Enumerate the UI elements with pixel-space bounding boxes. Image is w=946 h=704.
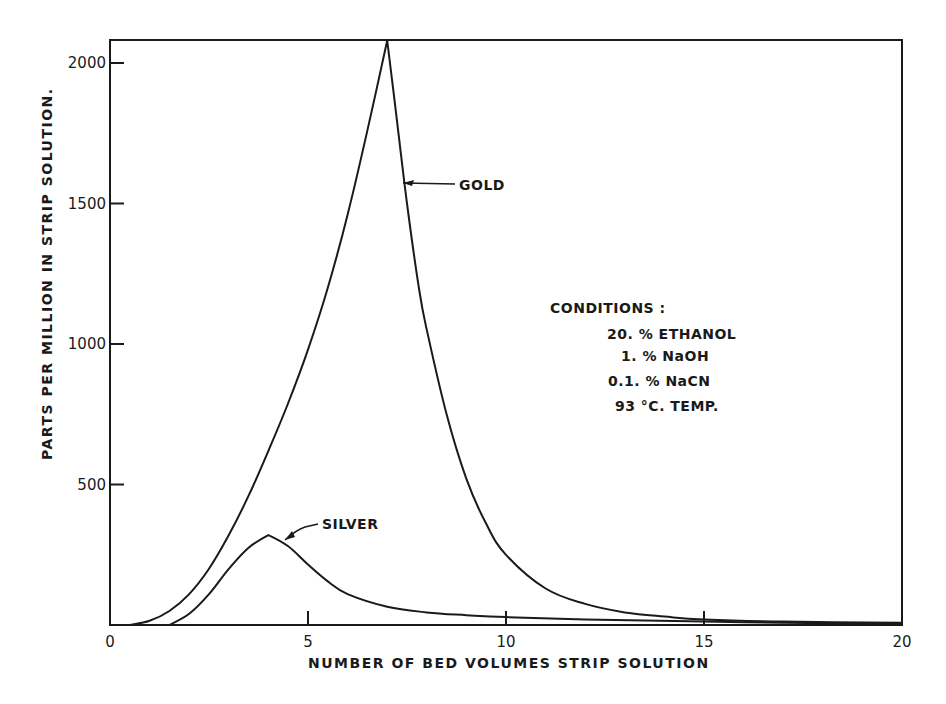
x-axis-label: NUMBER OF BED VOLUMES STRIP SOLUTION bbox=[308, 655, 710, 671]
chart: 500100015002000 05101520 NUMBER OF BED V… bbox=[0, 0, 946, 704]
condition-naoh: 1. % NaOH bbox=[621, 348, 709, 364]
condition-ethanol: 20. % ETHANOL bbox=[607, 326, 736, 342]
plot-frame bbox=[110, 40, 902, 625]
x-tick-label: 15 bbox=[694, 633, 713, 651]
silver-curve bbox=[169, 535, 902, 625]
y-tick-label: 1000 bbox=[68, 335, 106, 353]
x-tick-label: 5 bbox=[303, 633, 313, 651]
x-tick-label: 0 bbox=[105, 633, 115, 651]
x-tick-label: 10 bbox=[496, 633, 515, 651]
x-tick-label: 20 bbox=[892, 633, 911, 651]
condition-temp: 93 °C. TEMP. bbox=[615, 398, 719, 414]
gold-label: GOLD bbox=[459, 177, 505, 193]
y-tick-label: 2000 bbox=[68, 54, 106, 72]
conditions-annotation: CONDITIONS : 20. % ETHANOL 1. % NaOH 0.1… bbox=[550, 300, 736, 414]
y-axis-ticks: 500100015002000 bbox=[68, 54, 124, 494]
y-tick-label: 1500 bbox=[68, 195, 106, 213]
conditions-title: CONDITIONS : bbox=[550, 300, 666, 316]
y-tick-label: 500 bbox=[77, 476, 106, 494]
y-axis-label: PARTS PER MILLION IN STRIP SOLUTION. bbox=[39, 87, 55, 460]
silver-label: SILVER bbox=[322, 516, 378, 532]
gold-curve bbox=[130, 41, 902, 626]
condition-nacn: 0.1. % NaCN bbox=[608, 373, 711, 389]
